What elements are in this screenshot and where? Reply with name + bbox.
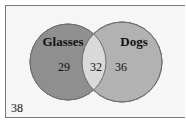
dogs-set-label: Dogs [120, 34, 147, 50]
dogs-only-count: 36 [115, 60, 127, 75]
glasses-set-label: Glasses [42, 34, 83, 50]
intersection-count: 32 [90, 60, 102, 75]
glasses-only-count: 29 [58, 60, 70, 75]
outside-count: 38 [11, 101, 23, 116]
